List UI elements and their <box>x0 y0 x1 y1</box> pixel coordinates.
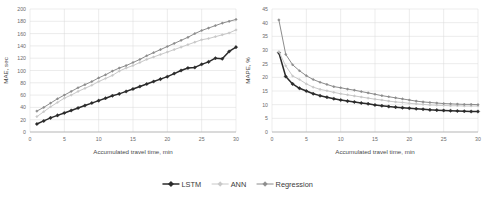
y-axis-tick-label: 45 <box>262 6 268 12</box>
series-line-ann <box>279 52 478 106</box>
data-point-marker <box>408 102 411 105</box>
data-point-marker <box>401 106 405 110</box>
data-point-marker <box>228 20 231 23</box>
figure-container: 020406080100120140160180200051015202530A… <box>0 0 484 199</box>
legend-item-ann[interactable]: ANN <box>212 180 247 189</box>
y-axis-tick-label: 20 <box>20 117 26 123</box>
data-point-marker <box>180 46 183 49</box>
legend-label: LSTM <box>181 180 201 189</box>
data-point-marker <box>353 95 356 98</box>
data-point-marker <box>346 93 349 96</box>
data-point-marker <box>332 91 335 94</box>
legend-marker-icon <box>263 182 268 187</box>
data-point-marker <box>401 98 404 101</box>
x-axis-tick-label: 10 <box>96 136 102 142</box>
data-point-marker <box>214 24 217 27</box>
y-axis-tick-label: 30 <box>262 47 268 53</box>
data-point-marker <box>414 107 418 111</box>
data-point-marker <box>374 98 377 101</box>
data-point-marker <box>166 51 169 54</box>
x-axis-title: Accumulated travel time, min <box>335 148 415 155</box>
x-axis-tick-label: 25 <box>199 136 205 142</box>
data-point-marker <box>476 110 480 114</box>
data-point-marker <box>339 92 342 95</box>
data-point-marker <box>193 41 196 44</box>
data-point-marker <box>422 101 425 104</box>
data-point-marker <box>435 108 439 112</box>
data-point-marker <box>325 96 329 100</box>
y-axis-title: MAE, sec <box>2 57 9 83</box>
legend-svg: LSTMANNRegression <box>0 168 484 199</box>
chart-legend: LSTMANNRegression <box>0 168 484 199</box>
data-point-marker <box>207 27 210 30</box>
data-point-marker <box>360 90 363 93</box>
data-point-marker <box>200 38 203 41</box>
data-point-marker <box>207 37 210 40</box>
x-axis-tick-label: 0 <box>271 136 274 142</box>
x-axis-tick-label: 15 <box>372 136 378 142</box>
y-axis-tick-label: 200 <box>17 6 26 12</box>
chart-panel-mae: 020406080100120140160180200051015202530A… <box>0 0 242 168</box>
data-point-marker <box>326 89 329 92</box>
data-point-marker <box>373 103 377 107</box>
data-point-marker <box>278 19 281 22</box>
data-point-marker <box>235 18 238 21</box>
y-axis-tick-label: 160 <box>17 31 26 37</box>
legend-item-regression[interactable]: Regression <box>257 180 313 189</box>
data-point-marker <box>221 33 224 36</box>
data-point-marker <box>463 109 467 113</box>
y-axis-title: MAPE, % <box>244 57 251 84</box>
data-point-marker <box>339 86 342 89</box>
data-point-marker <box>428 108 432 112</box>
y-axis-tick-label: 5 <box>265 115 268 121</box>
data-point-marker <box>332 97 336 101</box>
data-point-marker <box>360 96 363 99</box>
y-axis-tick-label: 140 <box>17 43 26 49</box>
y-axis-tick-label: 60 <box>20 92 26 98</box>
data-point-marker <box>463 103 466 106</box>
series-line-ann <box>37 30 236 117</box>
y-axis-tick-label: 20 <box>262 74 268 80</box>
y-axis-tick-label: 120 <box>17 55 26 61</box>
data-point-marker <box>326 83 329 86</box>
y-axis-tick-label: 40 <box>20 104 26 110</box>
data-point-marker <box>318 94 322 98</box>
x-axis-tick-label: 5 <box>305 136 308 142</box>
legend-item-lstm[interactable]: LSTM <box>162 180 201 189</box>
data-point-marker <box>394 105 398 109</box>
x-axis-tick-label: 10 <box>338 136 344 142</box>
y-axis-tick-label: 10 <box>262 102 268 108</box>
data-point-marker <box>449 109 453 113</box>
series-line-lstm <box>37 47 236 124</box>
y-axis-tick-label: 40 <box>262 20 268 26</box>
data-point-marker <box>387 95 390 98</box>
data-point-marker <box>401 101 404 104</box>
data-point-marker <box>429 101 432 104</box>
chart-panel-mape: 051015202530354045051015202530Accumulate… <box>242 0 484 168</box>
x-axis-tick-label: 30 <box>475 136 481 142</box>
y-axis-tick-label: 100 <box>17 68 26 74</box>
data-point-marker <box>159 53 162 56</box>
data-point-marker <box>319 81 322 84</box>
data-point-marker <box>346 99 350 103</box>
data-point-marker <box>374 93 377 96</box>
data-point-marker <box>346 88 349 91</box>
data-point-marker <box>456 103 459 106</box>
data-point-marker <box>381 94 384 97</box>
x-axis-tick-label: 20 <box>406 136 412 142</box>
data-point-marker <box>360 101 364 105</box>
data-point-marker <box>394 96 397 99</box>
x-axis-title: Accumulated travel time, min <box>93 148 173 155</box>
data-point-marker <box>394 101 397 104</box>
data-point-marker <box>408 106 412 110</box>
data-point-marker <box>387 105 391 109</box>
series-line-lstm <box>279 53 478 112</box>
data-point-marker <box>421 108 425 112</box>
legend-label: ANN <box>231 180 247 189</box>
x-axis-tick-label: 0 <box>29 136 32 142</box>
x-axis-tick-label: 30 <box>233 136 239 142</box>
y-axis-tick-label: 180 <box>17 18 26 24</box>
mape-chart-svg: 051015202530354045051015202530Accumulate… <box>242 0 484 168</box>
x-axis-tick-label: 15 <box>130 136 136 142</box>
x-axis-tick-label: 20 <box>164 136 170 142</box>
